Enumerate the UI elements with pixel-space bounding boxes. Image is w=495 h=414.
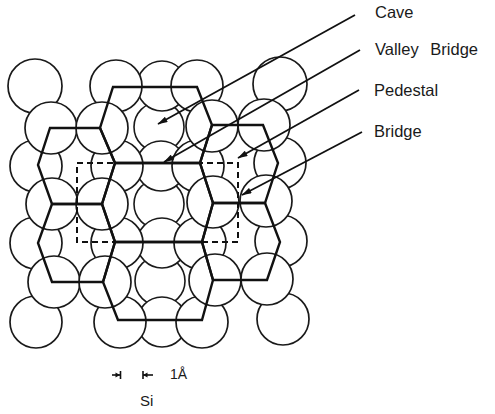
- scale-bar-left-pointing-arrow-icon: [143, 371, 153, 379]
- label-valley-bridge: Valley Bridge: [375, 40, 478, 58]
- si-surface-adsorption-sites-figure: Cave Valley Bridge Pedestal Bridge 1Å Si: [0, 0, 495, 414]
- substrate-label: Si: [140, 392, 153, 409]
- label-cave: Cave: [375, 3, 414, 21]
- label-bridge: Bridge: [374, 122, 422, 140]
- scale-bar-label: 1Å: [170, 366, 188, 382]
- scale-bar: 1Å: [112, 366, 188, 382]
- site-labels: Cave Valley Bridge Pedestal Bridge: [374, 3, 478, 140]
- scale-bar-right-pointing-arrow-icon: [112, 371, 121, 379]
- lattice-diagram: Cave Valley Bridge Pedestal Bridge 1Å Si: [0, 0, 495, 414]
- atoms-back-layer: [134, 102, 185, 306]
- label-pedestal: Pedestal: [374, 81, 438, 99]
